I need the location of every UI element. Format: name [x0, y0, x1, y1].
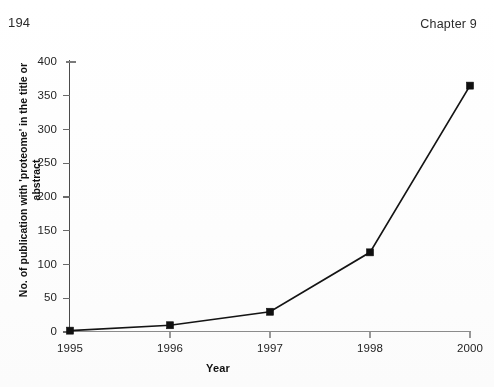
data-series-layer	[0, 0, 494, 387]
data-point-marker	[367, 249, 374, 256]
series-markers	[67, 82, 474, 334]
data-point-marker	[67, 327, 74, 334]
data-point-marker	[167, 322, 174, 329]
figure-page: 194 Chapter 9 050100150200250300350400 1…	[0, 0, 494, 387]
series-line	[70, 86, 470, 331]
data-point-marker	[467, 82, 474, 89]
data-point-marker	[267, 308, 274, 315]
